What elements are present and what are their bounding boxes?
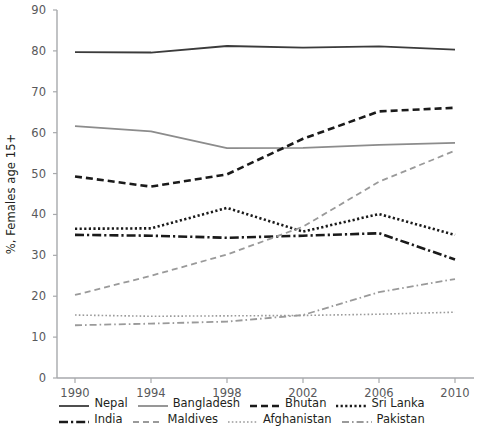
solid-line-swatch (138, 397, 168, 409)
line-chart: %, Females age 15+ 0102030405060708090 1… (0, 0, 484, 442)
legend-item[interactable]: Bangladesh (138, 396, 240, 410)
legend-label: Pakistan (377, 412, 425, 426)
legend-row: IndiaMaldivesAfghanistanPakistan (59, 412, 424, 426)
y-tick-label: 60 (0, 126, 46, 140)
legend-label: Maldives (168, 412, 219, 426)
y-tick-label: 20 (0, 289, 46, 303)
legend-label: Nepal (94, 396, 127, 410)
y-tick-label: 50 (0, 167, 46, 181)
legend-item[interactable]: Nepal (59, 396, 127, 410)
y-tick-label: 80 (0, 44, 46, 58)
y-tick-label: 70 (0, 85, 46, 99)
series-line-afghanistan (75, 312, 455, 316)
chart-legend: NepalBangladeshBhutanSri LankaIndiaMaldi… (0, 396, 484, 426)
legend-label: Afghanistan (263, 412, 331, 426)
y-tick-label: 90 (0, 3, 46, 17)
y-tick-label: 0 (0, 371, 46, 385)
legend-item[interactable]: India (59, 412, 122, 426)
dotted-line-swatch (336, 397, 366, 409)
legend-item[interactable]: Pakistan (342, 412, 425, 426)
legend-label: Bangladesh (173, 396, 240, 410)
dashed-line-swatch (250, 397, 280, 409)
dotted-line-swatch (228, 413, 258, 425)
legend-item[interactable]: Afghanistan (228, 412, 331, 426)
series-line-india (75, 233, 455, 259)
legend-row: NepalBangladeshBhutanSri Lanka (59, 396, 424, 410)
legend-item[interactable]: Sri Lanka (336, 396, 424, 410)
y-tick-label: 40 (0, 207, 46, 221)
series-line-maldives (75, 151, 455, 295)
legend-label: Sri Lanka (371, 396, 424, 410)
series-line-sri-lanka (75, 208, 455, 235)
dashdot-line-swatch (59, 413, 89, 425)
legend-item[interactable]: Bhutan (250, 396, 326, 410)
dashed-line-swatch (133, 413, 163, 425)
legend-label: Bhutan (285, 396, 326, 410)
legend-item[interactable]: Maldives (133, 412, 219, 426)
y-tick-label: 30 (0, 248, 46, 262)
series-line-nepal (75, 46, 455, 53)
solid-line-swatch (59, 397, 89, 409)
legend-label: India (94, 412, 122, 426)
series-line-bangladesh (75, 126, 455, 148)
series-line-pakistan (75, 279, 455, 325)
y-tick-label: 10 (0, 330, 46, 344)
plot-area (0, 0, 484, 396)
dashdot-line-swatch (342, 413, 372, 425)
